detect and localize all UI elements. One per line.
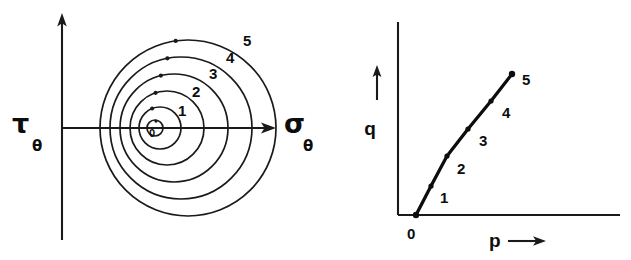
stress-path-dot-2 bbox=[444, 153, 449, 158]
mohr-label-3: 3 bbox=[209, 65, 217, 82]
mohr-tick-dot-0 bbox=[154, 119, 157, 122]
stress-path-label-3: 3 bbox=[479, 132, 487, 149]
tau-axis-label: τ bbox=[12, 108, 29, 139]
mohr-tick-dot-4 bbox=[165, 56, 169, 60]
stress-path-svg: 0 1 2 3 4 5 q p bbox=[318, 0, 631, 260]
stress-path-dot-3 bbox=[465, 126, 470, 131]
sigma-axis-label-subscript: θ bbox=[303, 137, 313, 155]
stress-path-dot-1 bbox=[428, 183, 433, 188]
mohr-tick-dot-5 bbox=[174, 39, 178, 43]
stress-path-dot-5 bbox=[509, 71, 515, 77]
mohr-tick-dot-1 bbox=[150, 107, 154, 111]
mohr-label-1: 1 bbox=[178, 102, 186, 119]
mohr-label-2: 2 bbox=[192, 83, 200, 100]
stress-path-dot-group bbox=[413, 71, 515, 218]
mohr-label-0: 0 bbox=[149, 127, 155, 139]
stress-path-label-5: 5 bbox=[522, 71, 530, 88]
stress-path-curve bbox=[416, 74, 512, 215]
q-axis-label: q bbox=[364, 118, 376, 139]
figure-canvas: 0 1 2 3 4 5 τ θ σ θ bbox=[0, 0, 631, 260]
p-axis-label: p bbox=[489, 230, 501, 251]
p-axis-label-group: p bbox=[489, 230, 546, 251]
mohr-circle-panel: 0 1 2 3 4 5 τ θ σ θ bbox=[0, 0, 318, 260]
mohr-tick-dot-group bbox=[150, 39, 178, 123]
stress-path-dot-0 bbox=[413, 212, 419, 218]
stress-path-label-1: 1 bbox=[440, 189, 448, 206]
stress-path-label-2: 2 bbox=[457, 160, 465, 177]
tau-axis-label-subscript: θ bbox=[32, 137, 42, 155]
stress-path-dot-4 bbox=[488, 98, 493, 103]
mohr-tick-dot-3 bbox=[159, 74, 163, 78]
mohr-circle-svg: 0 1 2 3 4 5 τ θ σ θ bbox=[0, 0, 318, 260]
stress-path-panel: 0 1 2 3 4 5 q p bbox=[318, 0, 631, 260]
stress-path-label-4: 4 bbox=[502, 104, 511, 121]
q-axis-label-group: q bbox=[364, 65, 381, 139]
mohr-label-4: 4 bbox=[226, 49, 235, 66]
mohr-tick-dot-2 bbox=[154, 91, 158, 95]
stress-path-label-0: 0 bbox=[407, 225, 415, 242]
sigma-axis-label: σ bbox=[284, 108, 305, 139]
mohr-label-5: 5 bbox=[243, 32, 251, 49]
